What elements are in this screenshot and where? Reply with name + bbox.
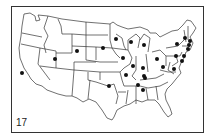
state-outlines xyxy=(19,13,196,120)
us-map xyxy=(0,0,213,140)
figure-label: 17 xyxy=(16,117,27,128)
